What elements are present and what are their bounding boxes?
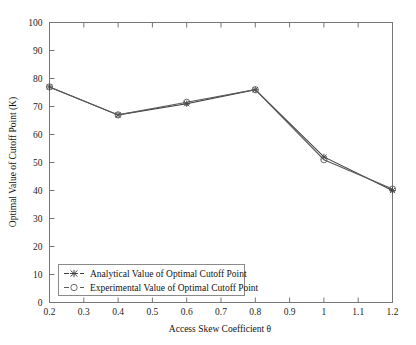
x-tick-label: 1 [322, 307, 327, 317]
y-tick-label: 10 [33, 270, 43, 280]
y-tick-label: 90 [33, 46, 43, 56]
circle-icon [71, 284, 77, 290]
y-axis-title: Optimal Value of Cutoff Point (K) [8, 97, 19, 227]
x-tick-label: 1.2 [387, 307, 399, 317]
y-tick-label: 20 [33, 242, 43, 252]
x-tick-label: 0.3 [78, 307, 90, 317]
x-axis-title: Access Skew Coefficient θ [169, 324, 272, 334]
x-tick-label: 0.8 [249, 307, 261, 317]
x-tick-label: 1.1 [352, 307, 364, 317]
x-tick-label: 0.5 [146, 307, 158, 317]
y-tick-label: 40 [33, 186, 43, 196]
x-tick-label: 0.2 [44, 307, 56, 317]
y-tick-label: 100 [28, 18, 43, 28]
line-chart: 0102030405060708090100 0.20.30.40.50.60.… [0, 0, 416, 345]
legend-entry-analytical: Analytical Value of Optimal Cutoff Point [64, 269, 247, 279]
y-tick-label: 50 [33, 158, 43, 168]
y-tick-label: 60 [33, 130, 43, 140]
y-tick-label: 70 [33, 102, 43, 112]
x-tick-label: 0.4 [112, 307, 124, 317]
x-tick-label: 0.6 [181, 307, 193, 317]
legend-label-analytical: Analytical Value of Optimal Cutoff Point [90, 269, 247, 279]
y-tick-label: 0 [38, 298, 43, 308]
chart-legend: Analytical Value of Optimal Cutoff Point… [59, 265, 259, 296]
star-icon [70, 270, 78, 277]
x-tick-label: 0.7 [215, 307, 227, 317]
legend-label-experimental: Experimental Value of Optimal Cutoff Poi… [90, 283, 259, 293]
x-tick-label: 0.9 [284, 307, 296, 317]
y-tick-label: 30 [33, 214, 43, 224]
y-tick-label: 80 [33, 74, 43, 84]
legend-entry-experimental: Experimental Value of Optimal Cutoff Poi… [64, 283, 259, 293]
chart-figure: 0102030405060708090100 0.20.30.40.50.60.… [0, 0, 416, 345]
